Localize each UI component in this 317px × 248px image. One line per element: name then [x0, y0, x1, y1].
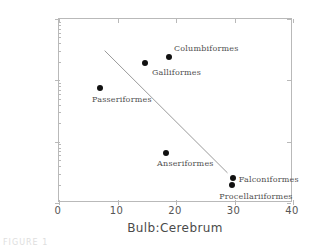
y-axis-tick-right: [287, 203, 291, 204]
x-axis-tick-top: [118, 19, 119, 23]
data-point[interactable]: [166, 54, 172, 60]
figure-root: Detection Threshold (ppm 1010.10.01Passe…: [0, 0, 317, 248]
y-axis-minor-tick: [59, 25, 61, 26]
y-axis-minor-tick: [59, 99, 61, 100]
y-axis-minor-tick: [59, 86, 61, 87]
data-point-label: Anseriformes: [157, 159, 214, 168]
x-axis-tick-label: 10: [110, 206, 124, 216]
y-axis-minor-tick: [59, 123, 61, 124]
x-axis-tick-label: 40: [285, 206, 299, 216]
y-axis-tick-right: [287, 80, 291, 81]
data-point-label: Passeriformes: [92, 95, 152, 104]
y-axis-minor-tick: [59, 94, 61, 95]
y-axis-minor-tick: [59, 144, 61, 145]
x-axis-tick-label: 0: [55, 206, 62, 216]
y-axis-minor-tick: [59, 90, 61, 91]
plot-area: 1010.10.01PasseriformesGalliformesColumb…: [59, 19, 291, 201]
x-axis-tick-top: [293, 19, 294, 23]
y-axis-minor-tick: [59, 29, 61, 30]
y-axis-minor-tick: [59, 151, 61, 152]
x-axis-title: Bulb:Cerebrum: [58, 221, 292, 235]
y-axis-minor-tick: [59, 160, 61, 161]
x-axis-tick-label: 30: [227, 206, 241, 216]
data-point-label: Columbiformes: [174, 44, 239, 53]
y-axis-minor-tick: [59, 105, 61, 106]
y-axis-tick-right: [287, 142, 291, 143]
y-axis-minor-tick: [59, 166, 61, 167]
y-axis-tick-right: [287, 19, 291, 20]
y-axis-minor-tick: [59, 83, 61, 84]
figure-caption: FIGURE 1: [3, 238, 48, 247]
y-axis-tick: [55, 142, 60, 143]
y-axis-minor-tick: [59, 43, 61, 44]
y-axis-minor-tick: [59, 33, 61, 34]
data-point[interactable]: [163, 150, 169, 156]
y-axis-minor-tick: [59, 37, 61, 38]
data-point[interactable]: [230, 175, 236, 181]
data-point-label: Procellariiformes: [219, 192, 293, 201]
x-axis-tick-top: [235, 19, 236, 23]
plot-frame: 1010.10.01PasseriformesGalliformesColumb…: [58, 18, 292, 202]
data-point-label: Falconiformes: [239, 175, 299, 184]
x-axis-tick-top: [176, 19, 177, 23]
y-axis-tick: [55, 80, 60, 81]
y-axis-minor-tick: [59, 155, 61, 156]
x-axis-tick-label: 20: [168, 206, 182, 216]
y-axis-minor-tick: [59, 185, 61, 186]
y-axis-minor-tick: [59, 174, 61, 175]
y-axis-minor-tick: [59, 148, 61, 149]
y-axis-minor-tick: [59, 112, 61, 113]
y-axis-minor-tick: [59, 51, 61, 52]
data-point-label: Galliformes: [152, 68, 201, 77]
data-point[interactable]: [97, 85, 103, 91]
y-axis-minor-tick: [59, 62, 61, 63]
x-axis-tick-top: [59, 19, 60, 23]
data-point[interactable]: [229, 182, 235, 188]
